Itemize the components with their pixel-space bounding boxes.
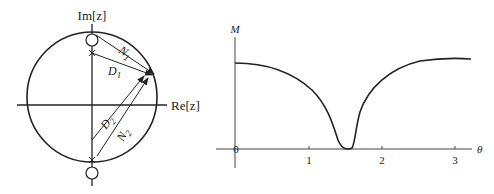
z-plane-diagram: Im[z] Re[z] N1 D1 D2 N2 [17, 8, 200, 186]
im-axis-label: Im[z] [78, 8, 107, 23]
label-n2: N2 [113, 125, 134, 145]
figure: Im[z] Re[z] N1 D1 D2 N2 M θ 0 1 2 3 [0, 0, 494, 194]
x-tick-label-0: 0 [233, 143, 239, 155]
vector-n2 [97, 78, 148, 156]
x-tick-label-3: 3 [452, 154, 458, 166]
svg-text:D1: D1 [107, 64, 121, 80]
re-axis-label: Re[z] [171, 98, 200, 113]
x-axis-label: θ [477, 143, 483, 155]
label-d1: D1 [107, 64, 121, 80]
zero-marker-bottom [86, 167, 98, 179]
magnitude-curve [235, 58, 471, 149]
zero-marker-top [86, 34, 98, 46]
svg-text:N2: N2 [113, 125, 134, 145]
y-axis-label: M [229, 23, 240, 35]
x-tick-label-1: 1 [306, 154, 312, 166]
magnitude-chart: M θ 0 1 2 3 [216, 23, 483, 168]
x-tick-label-2: 2 [379, 154, 385, 166]
